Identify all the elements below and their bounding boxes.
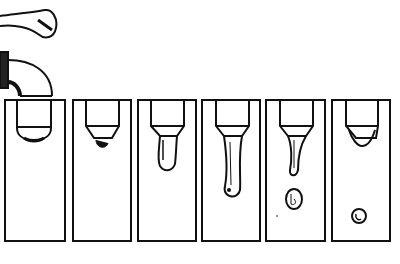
faucet-handle-icon [0, 10, 56, 37]
panel-stage-6 [332, 100, 390, 241]
faucet-spout-icon [0, 52, 52, 96]
panel-stage-3 [138, 100, 196, 241]
panel-stage-2 [73, 100, 131, 241]
panel-stage-5 [266, 100, 325, 241]
panel-stage-4 [202, 100, 260, 241]
drop-sequence-illustration [0, 0, 400, 264]
panel-stage-1 [5, 100, 65, 241]
